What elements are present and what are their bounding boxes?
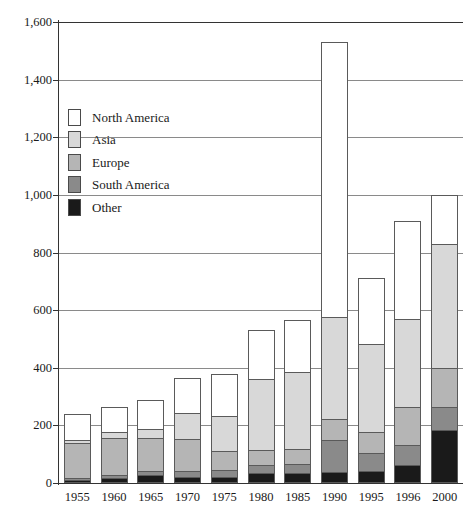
x-axis-label-1980: 1980 [249,487,274,507]
y-axis-label: 1,400 [2,73,52,86]
legend-swatch-icon [68,176,81,193]
y-axis-label: 800 [2,246,52,259]
x-axis-labels: 1955196019651970197519801985199019951996… [59,487,463,511]
legend-item-europe[interactable]: Europe [68,151,238,174]
x-axis-label-1960: 1960 [102,487,127,507]
y-axis-label: 1,600 [2,16,52,29]
x-axis-line [58,483,463,484]
legend-swatch-icon [68,109,81,126]
legend-item-other[interactable]: Other [68,196,238,219]
legend-swatch-icon [68,199,81,216]
y-axis-label: 1,000 [2,189,52,202]
legend-label: Other [92,201,122,214]
legend-swatch-icon [68,154,81,171]
x-axis-label-2000: 2000 [432,487,457,507]
chart-legend: North AmericaAsiaEuropeSouth AmericaOthe… [68,106,238,219]
legend-label: South America [92,178,170,191]
legend-label: Europe [92,156,130,169]
x-axis-label-1955: 1955 [65,487,90,507]
y-axis-label: 400 [2,362,52,375]
x-axis-label-1996: 1996 [395,487,420,507]
stacked-bar-chart: 1,6001,4001,2001,0008006004002000 195519… [0,0,470,520]
x-axis-label-1970: 1970 [175,487,200,507]
legend-label: North America [92,111,170,124]
y-axis-label: 0 [2,477,52,490]
legend-swatch-icon [68,131,81,148]
x-axis-label-1965: 1965 [138,487,163,507]
y-axis-labels: 1,6001,4001,2001,0008006004002000 [0,22,470,483]
y-axis-label: 1,200 [2,131,52,144]
x-axis-label-1975: 1975 [212,487,237,507]
legend-label: Asia [92,133,116,146]
x-axis-label-1995: 1995 [359,487,384,507]
x-axis-label-1985: 1985 [285,487,310,507]
legend-item-south-america[interactable]: South America [68,174,238,197]
y-axis-label: 200 [2,419,52,432]
legend-item-asia[interactable]: Asia [68,129,238,152]
legend-item-north-america[interactable]: North America [68,106,238,129]
x-axis-label-1990: 1990 [322,487,347,507]
y-axis-label: 600 [2,304,52,317]
